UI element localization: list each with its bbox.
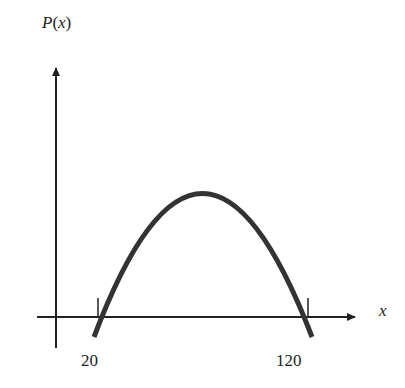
profit-curve: [94, 194, 312, 338]
tick-label-120: 120: [276, 351, 302, 371]
x-axis-label: x: [379, 301, 387, 321]
tick-label-20: 20: [81, 351, 98, 371]
chart-canvas: [0, 0, 405, 388]
y-axis-label: P(x): [42, 13, 71, 33]
